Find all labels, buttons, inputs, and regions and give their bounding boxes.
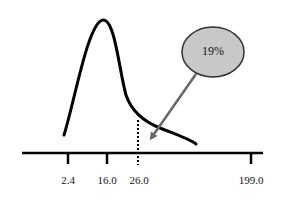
callout-arrow [152, 74, 196, 137]
tick-label-2-4: 2.4 [61, 174, 75, 186]
callout-label: 19% [202, 44, 224, 59]
tick-label-199-0: 199.0 [239, 174, 264, 186]
distribution-curve [64, 20, 196, 144]
chart: 19% 2.4 16.0 26.0 199.0 [0, 0, 281, 200]
tick-label-26-0: 26.0 [129, 174, 148, 186]
tick-label-16-0: 16.0 [97, 174, 116, 186]
chart-canvas [0, 0, 281, 200]
